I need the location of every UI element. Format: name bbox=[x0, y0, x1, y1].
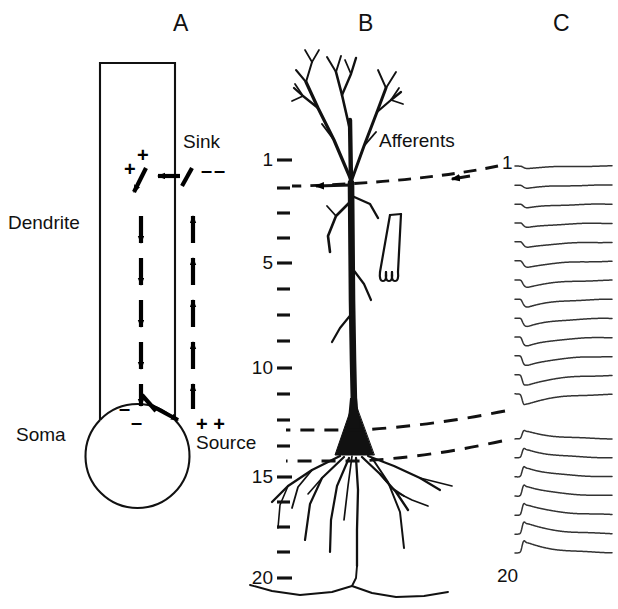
field-potential-trace bbox=[515, 318, 612, 326]
field-potential-trace bbox=[515, 204, 612, 208]
charge-sink-inside-upper: + bbox=[137, 145, 149, 165]
field-potential-trace bbox=[515, 430, 612, 438]
depth-tick-label-5: 5 bbox=[243, 252, 273, 274]
figure-vector-layer bbox=[0, 0, 618, 609]
panel-letter-a: A bbox=[173, 10, 189, 37]
field-potential-trace bbox=[515, 356, 612, 366]
panel-b-afferent-dashed-line bbox=[292, 166, 498, 186]
field-potential-trace bbox=[515, 448, 612, 457]
panel-a-neuron-outline bbox=[86, 63, 190, 508]
label-dendrite: Dendrite bbox=[8, 212, 80, 234]
trace-depth-label-last: 20 bbox=[497, 565, 518, 587]
panel-c-trace-stack bbox=[515, 166, 612, 553]
field-potential-trace bbox=[515, 261, 612, 267]
field-potential-trace bbox=[515, 504, 612, 516]
charge-source-inside-lower: – bbox=[131, 412, 142, 432]
figure-root: A B C bbox=[0, 0, 618, 609]
charge-sink-inside-lower: + bbox=[124, 159, 136, 179]
field-potential-trace bbox=[515, 522, 612, 534]
label-sink: Sink bbox=[183, 131, 220, 153]
field-potential-trace bbox=[515, 299, 612, 307]
panel-letter-b: B bbox=[358, 10, 374, 37]
panel-b-laminar-band-upper bbox=[286, 411, 505, 430]
field-potential-trace bbox=[515, 394, 612, 405]
field-potential-trace bbox=[515, 337, 612, 346]
field-potential-trace bbox=[515, 485, 612, 496]
field-potential-trace bbox=[515, 467, 612, 477]
charge-sink-outside: –– bbox=[201, 160, 227, 180]
charge-source-outside: + + bbox=[196, 414, 225, 434]
panel-b-depth-scale-ticks bbox=[277, 160, 292, 578]
depth-tick-label-20: 20 bbox=[243, 567, 273, 589]
label-soma: Soma bbox=[16, 424, 66, 446]
depth-tick-label-1: 1 bbox=[243, 149, 273, 171]
field-potential-trace bbox=[515, 280, 612, 287]
panel-a-source-membrane-current bbox=[142, 395, 178, 420]
field-potential-trace bbox=[515, 242, 612, 247]
field-potential-trace bbox=[515, 185, 612, 188]
depth-tick-label-10: 10 bbox=[243, 357, 273, 379]
depth-tick-label-15: 15 bbox=[243, 466, 273, 488]
field-potential-trace bbox=[515, 223, 612, 227]
label-afferents: Afferents bbox=[379, 130, 455, 152]
label-source: Source bbox=[196, 432, 256, 454]
charge-source-inside-upper: – bbox=[119, 398, 130, 418]
panel-b-afferent-arrowheads bbox=[316, 176, 470, 186]
recording-pipette-icon bbox=[380, 214, 401, 281]
field-potential-trace bbox=[515, 375, 612, 385]
panel-a-sink-membrane-current bbox=[134, 168, 192, 192]
panel-b-laminar-band-lower bbox=[286, 441, 502, 461]
field-potential-trace bbox=[515, 541, 612, 553]
panel-letter-c: C bbox=[553, 10, 570, 37]
field-potential-trace bbox=[515, 166, 612, 169]
trace-depth-label-first: 1 bbox=[502, 152, 513, 174]
